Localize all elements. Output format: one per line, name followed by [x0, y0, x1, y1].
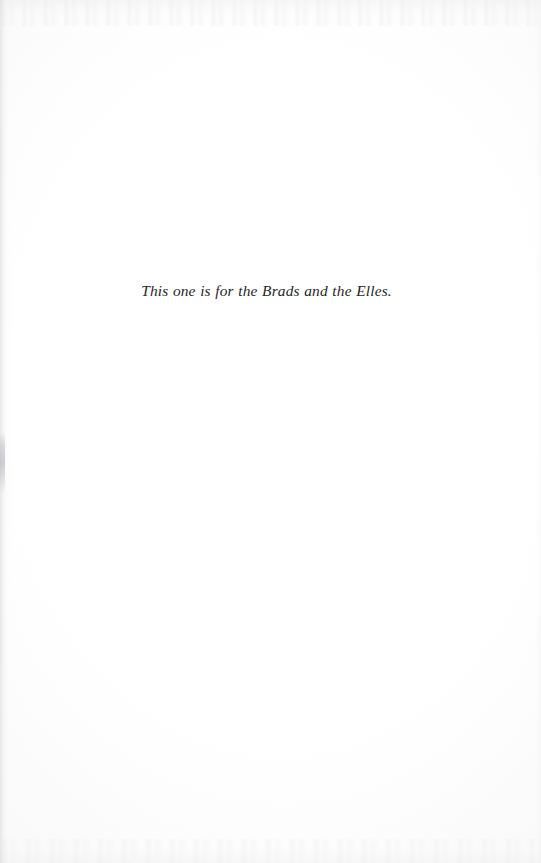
gutter-shadow	[0, 0, 14, 863]
gutter-smudge-artifact	[0, 432, 5, 494]
right-trim-shadow	[531, 0, 541, 863]
book-page: This one is for the Brads and the Elles.	[0, 0, 541, 863]
dedication-text: This one is for the Brads and the Elles.	[141, 281, 392, 300]
scan-grain-top-edge	[0, 0, 541, 26]
paper-background	[0, 0, 541, 863]
scan-grain-bottom-edge	[0, 839, 541, 863]
dedication-block: This one is for the Brads and the Elles.	[0, 281, 533, 300]
